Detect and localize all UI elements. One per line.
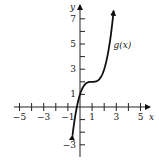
x-axis-label: x — [149, 112, 154, 122]
y-tick-label: −3 — [63, 140, 77, 150]
axes — [14, 5, 150, 157]
x-tick-label: −5 — [13, 112, 27, 122]
tick-labels: −5−3−11357531−3 — [13, 14, 144, 150]
y-tick-label: 7 — [70, 14, 76, 24]
x-tick-label: −3 — [37, 112, 51, 122]
y-tick-label: 1 — [70, 89, 76, 99]
curve-label: g(x) — [113, 40, 131, 50]
x-tick-label: −1 — [61, 112, 74, 122]
y-tick-label: 5 — [70, 39, 76, 49]
x-tick-label: 1 — [89, 112, 95, 122]
y-tick-label: 3 — [70, 64, 76, 74]
x-tick-label: 5 — [138, 112, 144, 122]
x-tick-label: 3 — [113, 112, 119, 122]
graph-of-g: −5−3−11357531−3 x y g(x) — [0, 0, 159, 160]
y-axis-label: y — [69, 2, 76, 12]
